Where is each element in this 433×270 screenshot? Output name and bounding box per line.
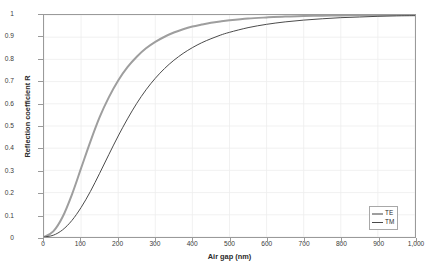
x-tick-mark <box>80 238 81 243</box>
legend-swatch-te <box>372 213 383 215</box>
plot-area <box>43 14 416 238</box>
series-line-tm <box>44 16 415 237</box>
x-tick-mark <box>379 238 380 243</box>
y-tick-label: 0.7 <box>0 78 14 85</box>
y-tick-label: 0.4 <box>0 145 14 152</box>
y-tick-label: 0 <box>0 235 14 242</box>
y-tick-mark <box>38 59 43 60</box>
y-tick-mark <box>38 14 43 15</box>
y-tick-label: 0.9 <box>0 33 14 40</box>
y-tick-label: 0.2 <box>0 190 14 197</box>
y-tick-mark <box>38 193 43 194</box>
y-tick-mark <box>38 148 43 149</box>
x-tick-mark <box>155 238 156 243</box>
legend-item-tm[interactable]: TM <box>372 218 394 227</box>
chart-figure: 00.10.20.30.40.50.60.70.80.91 0100200300… <box>0 0 433 270</box>
y-tick-label: 0.6 <box>0 100 14 107</box>
y-tick-mark <box>38 216 43 217</box>
y-tick-label: 0.1 <box>0 212 14 219</box>
y-tick-mark <box>38 36 43 37</box>
legend-label: TM <box>385 219 394 225</box>
x-tick-mark <box>118 238 119 243</box>
y-tick-label: 0.8 <box>0 56 14 63</box>
y-axis-label: Reflection coefficient R <box>23 22 32 212</box>
x-tick-mark <box>267 238 268 243</box>
y-tick-mark <box>38 81 43 82</box>
x-tick-mark <box>416 238 417 243</box>
legend-swatch-tm <box>372 222 383 223</box>
series-line-te <box>44 15 415 237</box>
y-tick-label: 1 <box>0 11 14 18</box>
x-tick-mark <box>230 238 231 243</box>
x-tick-mark <box>192 238 193 243</box>
x-axis-label: Air gap (nm) <box>43 252 416 261</box>
x-tick-mark <box>43 238 44 243</box>
y-tick-label: 0.5 <box>0 123 14 130</box>
x-tick-mark <box>304 238 305 243</box>
legend-item-te[interactable]: TE <box>372 209 394 218</box>
y-tick-mark <box>38 126 43 127</box>
y-tick-label: 0.3 <box>0 168 14 175</box>
legend[interactable]: TETM <box>369 206 398 230</box>
legend-label: TE <box>385 210 393 216</box>
series-lines <box>44 15 415 237</box>
y-tick-mark <box>38 171 43 172</box>
x-tick-mark <box>341 238 342 243</box>
y-tick-mark <box>38 104 43 105</box>
